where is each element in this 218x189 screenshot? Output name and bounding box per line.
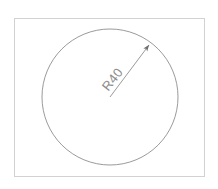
radius-dimension-label: R40 [99,65,126,94]
technical-drawing: R40 [0,0,218,189]
drawing-canvas: R40 [0,0,218,189]
radius-dimension-label-group: R40 [99,65,126,94]
drawing-frame [15,19,205,177]
